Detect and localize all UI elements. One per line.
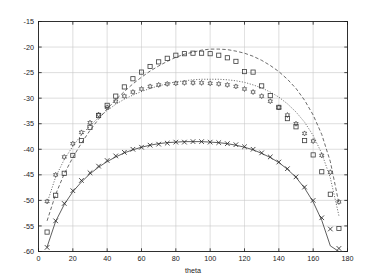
y-tick-label: -55 <box>24 222 34 231</box>
x-tick-label: 0 <box>37 254 41 263</box>
x-axis-title: theta <box>185 266 201 275</box>
y-tick-label: -30 <box>24 94 34 103</box>
y-tick-label: -40 <box>24 145 34 154</box>
y-tick-label: -50 <box>24 196 34 205</box>
x-tick-label: 180 <box>342 254 354 263</box>
y-tick-label: -60 <box>24 247 34 256</box>
figure-container: 020406080100120140160180-60-55-50-45-40-… <box>0 0 365 279</box>
x-tick-label: 60 <box>138 254 146 263</box>
x-tick-label: 20 <box>69 254 77 263</box>
y-tick-label: -20 <box>24 43 34 52</box>
x-tick-label: 40 <box>103 254 111 263</box>
chart-plot: 020406080100120140160180-60-55-50-45-40-… <box>0 0 365 279</box>
x-tick-label: 100 <box>204 254 216 263</box>
y-tick-label: -25 <box>24 68 34 77</box>
x-tick-label: 120 <box>239 254 251 263</box>
y-tick-label: -35 <box>24 119 34 128</box>
y-tick-label: -15 <box>24 17 34 26</box>
y-tick-label: -45 <box>24 170 34 179</box>
x-tick-label: 160 <box>307 254 319 263</box>
chart-background <box>0 0 365 279</box>
x-tick-label: 80 <box>172 254 180 263</box>
x-tick-label: 140 <box>273 254 285 263</box>
